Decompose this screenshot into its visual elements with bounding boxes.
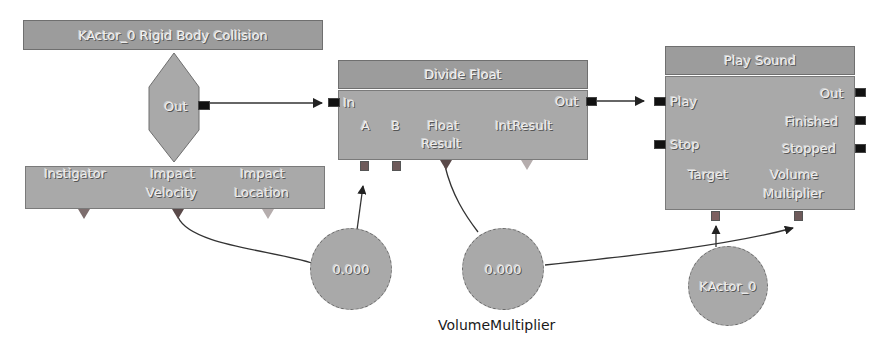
divide-out-port[interactable] [586, 97, 597, 106]
finished-label: Finished [785, 114, 838, 129]
divide-node-title[interactable]: Divide Float [338, 60, 588, 89]
float-variable-volume-multiplier[interactable]: 0.000 [462, 228, 544, 310]
event-node-title[interactable]: KActor_0 Rigid Body Collision [23, 20, 323, 50]
event-node-title-text: KActor_0 Rigid Body Collision [78, 28, 268, 43]
object-variable-kactor[interactable]: KActor_0 [688, 246, 768, 326]
stopped-port[interactable] [855, 144, 866, 153]
finished-port[interactable] [855, 116, 866, 125]
divide-a-label: A [361, 118, 370, 133]
float-variable-1-value: 0.000 [332, 262, 369, 277]
volume-multiplier-label-2: Multiplier [763, 186, 824, 201]
impact-location-port[interactable] [262, 209, 274, 219]
stop-port[interactable] [654, 140, 666, 149]
wire-float-var-to-divide-a[interactable] [357, 186, 363, 230]
divide-b-label: B [391, 118, 400, 133]
var-label-instigator: Instigator [44, 166, 106, 181]
var-label-impact-velocity-1: Impact [150, 166, 195, 181]
event-out-port[interactable] [198, 101, 210, 110]
divide-out-label: Out [555, 94, 579, 109]
event-out-label: Out [164, 99, 188, 114]
target-label: Target [688, 167, 728, 182]
var-label-impact-velocity-2: Velocity [146, 185, 197, 200]
instigator-port[interactable] [78, 209, 90, 219]
divide-float-result-label-2: Result [421, 136, 461, 151]
play-node-title-text: Play Sound [724, 53, 796, 68]
divide-in-label: In [343, 95, 355, 110]
wire-float-result-to-volume-var[interactable] [445, 166, 478, 232]
divide-in-port[interactable] [328, 98, 340, 107]
stop-label: Stop [670, 137, 700, 152]
divide-node-title-text: Divide Float [424, 67, 501, 82]
volume-multiplier-label-1: Volume [770, 167, 818, 182]
play-port[interactable] [654, 97, 666, 106]
play-label: Play [670, 94, 697, 109]
float-variable-2-value: 0.000 [484, 262, 521, 277]
play-node-title[interactable]: Play Sound [665, 46, 855, 75]
divide-int-result-label: IntResult [495, 118, 552, 133]
object-variable-value: KActor_0 [699, 279, 756, 294]
out-label: Out [820, 86, 844, 101]
out-port[interactable] [855, 88, 866, 97]
divide-float-result-port[interactable] [440, 160, 452, 170]
wire-impact-velocity-to-float-var[interactable] [178, 217, 312, 263]
divide-int-result-port[interactable] [521, 160, 533, 170]
volume-multiplier-port[interactable] [794, 211, 803, 221]
volume-multiplier-variable-name: VolumeMultiplier [438, 317, 555, 333]
stopped-label: Stopped [782, 141, 836, 156]
float-variable-1[interactable]: 0.000 [310, 228, 392, 310]
divide-float-result-label-1: Float [427, 118, 459, 133]
var-label-impact-location-1: Impact [240, 166, 285, 181]
impact-velocity-port[interactable] [172, 209, 184, 219]
target-port[interactable] [711, 211, 720, 221]
divide-a-port[interactable] [360, 161, 369, 171]
var-label-impact-location-2: Location [234, 185, 289, 200]
divide-b-port[interactable] [392, 161, 401, 171]
